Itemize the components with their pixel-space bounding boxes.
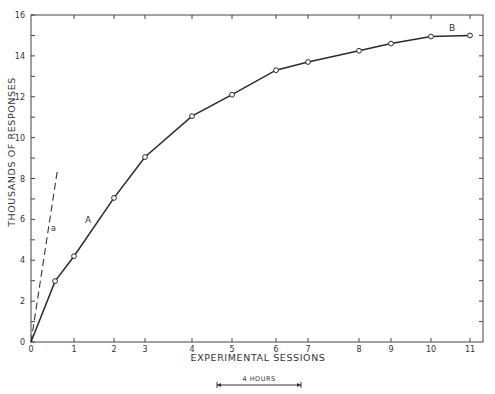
x-tick-label: 8 (356, 345, 361, 354)
data-point-marker (389, 41, 394, 46)
x-tick-label: 11 (465, 345, 475, 354)
y-tick-label: 14 (15, 52, 25, 61)
y-tick-label: 0 (20, 338, 25, 347)
y-tick-label: 2 (20, 297, 25, 306)
y-axis-ticks: 0246810121416 (15, 11, 483, 347)
y-tick-label: 8 (20, 175, 25, 184)
x-tick-label: 10 (426, 345, 436, 354)
plot-border (31, 15, 483, 342)
x-tick-label: 2 (111, 345, 116, 354)
curve-label-a: a (51, 224, 56, 233)
solid-line-A (31, 35, 470, 342)
y-tick-label: 16 (15, 11, 25, 20)
data-point-marker (230, 92, 235, 97)
x-tick-label: 0 (28, 345, 33, 354)
curve-label-A: A (85, 215, 92, 225)
x-axis-title: EXPERIMENTAL SESSIONS (191, 352, 326, 363)
cumulative-response-chart: 0246810121416 01234567891011 THOUSANDS O… (0, 0, 495, 394)
scale-bar-label: 4 HOURS (242, 375, 275, 383)
y-tick-label: 6 (20, 215, 25, 224)
data-point-marker (429, 34, 434, 39)
data-point-marker (274, 68, 279, 73)
data-point-marker (143, 155, 148, 160)
data-point-marker (53, 279, 58, 284)
dashed-line-a (31, 168, 58, 342)
data-point-markers (53, 33, 473, 283)
x-tick-label: 9 (388, 345, 393, 354)
plot-frame (31, 15, 483, 342)
y-tick-label: 4 (20, 256, 25, 265)
data-point-marker (112, 196, 117, 201)
data-point-marker (190, 114, 195, 119)
data-point-marker (468, 33, 473, 38)
x-tick-label: 1 (71, 345, 76, 354)
data-point-marker (306, 60, 311, 65)
x-tick-label: 3 (142, 345, 147, 354)
x-axis-ticks: 01234567891011 (28, 15, 475, 354)
data-point-marker (357, 48, 362, 53)
y-axis-title: THOUSANDS OF RESPONSES (6, 77, 17, 228)
scale-bar-4-hours: 4 HOURS (217, 375, 301, 388)
curve-label-B: B (449, 23, 455, 33)
data-point-marker (72, 254, 77, 259)
